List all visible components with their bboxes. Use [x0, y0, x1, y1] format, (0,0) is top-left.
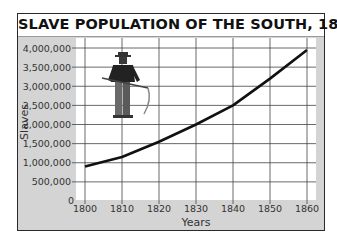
y-tick-label: 500,000 [32, 176, 71, 187]
y-axis-label: Slaves [18, 104, 31, 140]
y-tick-label: 3,500,000 [23, 62, 71, 73]
x-tick-label: 1820 [147, 203, 171, 214]
x-tick-label: 1850 [258, 203, 282, 214]
x-tick-label: 1800 [73, 203, 97, 214]
y-tick-label: 1,000,000 [23, 157, 71, 168]
x-tick-label: 1860 [295, 203, 319, 214]
x-axis-ticks: 1800181018201830184018501860 [73, 203, 319, 214]
x-tick-label: 1810 [110, 203, 134, 214]
y-tick-label: 3,000,000 [23, 81, 71, 92]
x-axis-label: Years [180, 216, 210, 229]
line-chart: 0500,0001,000,0001,500,0002,000,0002,500… [0, 0, 337, 236]
x-tick-label: 1830 [184, 203, 208, 214]
x-tick-label: 1840 [221, 203, 245, 214]
y-tick-label: 4,000,000 [23, 43, 71, 54]
